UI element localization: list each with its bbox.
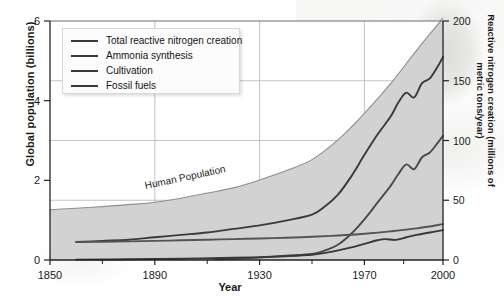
y-axis-ticks-left: 0246 — [34, 15, 50, 266]
y-tick-label-right: 100 — [453, 135, 471, 147]
x-tick-label: 2000 — [431, 269, 455, 281]
y-axis-ticks-right: 050100150200 — [443, 15, 471, 266]
y-tick-label-left: 0 — [34, 254, 40, 266]
legend-item[interactable]: Cultivation — [63, 63, 239, 78]
legend-line-icon — [71, 55, 98, 57]
y-axis-label-left: Global population (billions) — [24, 0, 36, 194]
x-tick-label: 1890 — [143, 269, 167, 281]
legend-item-label: Fossil fuels — [106, 81, 156, 91]
y-tick-label-right: 200 — [453, 15, 471, 27]
legend-item-label: Total reactive nitrogen creation — [106, 36, 242, 46]
x-axis-ticks: 18501890193019702000 — [38, 260, 455, 281]
legend-item-label: Ammonia synthesis — [106, 51, 193, 61]
chart-figure: 185018901930197020000246050100150200 Glo… — [0, 0, 504, 302]
legend-item[interactable]: Total reactive nitrogen creation — [63, 33, 239, 48]
legend-item[interactable]: Fossil fuels — [63, 78, 239, 93]
y-tick-label-right: 0 — [453, 254, 459, 266]
chart-legend: Total reactive nitrogen creation Ammonia… — [62, 28, 240, 94]
legend-item-label: Cultivation — [106, 66, 153, 76]
legend-line-icon — [71, 40, 98, 42]
x-tick-label: 1970 — [352, 269, 376, 281]
legend-item[interactable]: Ammonia synthesis — [63, 48, 239, 63]
y-tick-label-right: 150 — [453, 75, 471, 87]
y-tick-label-right: 50 — [453, 194, 465, 206]
legend-line-icon — [71, 85, 98, 87]
y-axis-label-right: Reactive nitrogen creation (millions of … — [475, 1, 496, 201]
x-axis-label: Year — [0, 281, 460, 293]
x-tick-label: 1850 — [38, 269, 62, 281]
x-tick-label: 1930 — [247, 269, 271, 281]
legend-line-icon — [71, 70, 98, 72]
